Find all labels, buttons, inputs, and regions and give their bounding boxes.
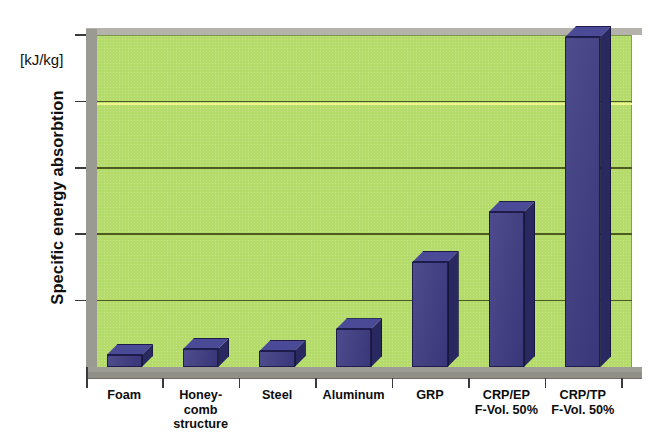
x-axis-tick bbox=[315, 378, 317, 388]
bar[interactable] bbox=[336, 318, 382, 367]
x-axis-label: Aluminum bbox=[315, 388, 391, 403]
plot-floor-front bbox=[86, 372, 642, 378]
y-axis-tick bbox=[75, 300, 86, 302]
bar[interactable] bbox=[259, 340, 305, 367]
plot-top-edge bbox=[97, 35, 632, 36]
x-axis-tick bbox=[468, 378, 470, 388]
scan-artifact-line bbox=[97, 103, 632, 105]
bar[interactable] bbox=[565, 26, 611, 367]
x-axis-label: Steel bbox=[239, 388, 315, 403]
plot-right-edge bbox=[631, 35, 632, 367]
bar-front-face bbox=[336, 329, 371, 367]
bar-side-face bbox=[600, 26, 611, 367]
gridline bbox=[97, 300, 632, 302]
bar-front-face bbox=[259, 351, 294, 367]
bar-front-face bbox=[489, 212, 524, 367]
gridline bbox=[97, 167, 632, 169]
y-axis-tick bbox=[75, 34, 86, 36]
bar-side-face bbox=[448, 251, 459, 367]
x-axis-tick bbox=[162, 378, 164, 388]
plot-left-wall bbox=[86, 29, 97, 373]
y-axis-tick bbox=[75, 233, 86, 235]
x-axis-labels: FoamHoney- comb structureSteelAluminumGR… bbox=[0, 388, 650, 443]
bar[interactable] bbox=[489, 201, 535, 367]
y-axis-title: Specific energy absorbtion bbox=[48, 63, 67, 333]
x-axis-tick bbox=[621, 378, 623, 388]
x-axis-tick bbox=[239, 378, 241, 388]
bar-front-face bbox=[107, 355, 142, 367]
plot-wall-top bbox=[86, 28, 642, 35]
bar-front-face bbox=[183, 349, 218, 367]
bar[interactable] bbox=[107, 344, 153, 367]
bar-chart: Specific energy absorbtion [kJ/kg] FoamH… bbox=[0, 0, 650, 443]
bar[interactable] bbox=[183, 338, 229, 367]
x-axis-tick bbox=[86, 378, 88, 388]
x-axis-label: Foam bbox=[86, 388, 162, 403]
x-axis-label: Honey- comb structure bbox=[162, 388, 238, 432]
bar-front-face bbox=[412, 262, 447, 367]
x-axis-tick bbox=[545, 378, 547, 388]
gridline bbox=[97, 233, 632, 235]
x-axis-label: CRP/EP F-Vol. 50% bbox=[468, 388, 544, 417]
y-axis-tick bbox=[75, 167, 86, 169]
x-axis-label: GRP bbox=[392, 388, 468, 403]
y-axis-unit-label: [kJ/kg] bbox=[20, 51, 63, 68]
bar[interactable] bbox=[412, 251, 458, 367]
bar-front-face bbox=[565, 37, 600, 367]
x-axis-label: CRP/TP F-Vol. 50% bbox=[545, 388, 621, 417]
y-axis-tick bbox=[75, 101, 86, 103]
x-axis-tick bbox=[392, 378, 394, 388]
bar-side-face bbox=[524, 201, 535, 367]
